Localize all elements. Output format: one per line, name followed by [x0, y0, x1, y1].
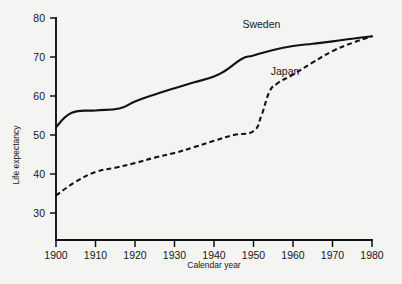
y-tick-label-80: 80: [33, 12, 45, 24]
life-expectancy-chart: 304050607080 190019101920193019401950196…: [0, 0, 402, 284]
series-label-sweden: Sweden: [242, 18, 280, 30]
series-paths: [56, 36, 372, 195]
y-tick-label-60: 60: [33, 90, 45, 102]
x-tick-label-1950: 1950: [242, 249, 266, 261]
x-tick-label-1970: 1970: [321, 249, 345, 261]
series-line-japan: [56, 36, 372, 195]
y-tick-label-40: 40: [33, 168, 45, 180]
x-tick-label-1980: 1980: [360, 249, 384, 261]
y-tick-label-30: 30: [33, 207, 45, 219]
series-label-japan: Japan: [271, 65, 300, 77]
y-axis-title: Life expectancy: [11, 125, 21, 185]
x-tick-label-1920: 1920: [123, 249, 147, 261]
y-tick-label-50: 50: [33, 129, 45, 141]
series-line-sweden: [56, 36, 372, 127]
x-tick-label-1960: 1960: [281, 249, 305, 261]
x-tick-label-1930: 1930: [163, 249, 187, 261]
chart-axes: [56, 18, 372, 240]
chart-canvas: 304050607080 190019101920193019401950196…: [0, 0, 402, 284]
x-axis-ticks: [56, 240, 372, 247]
x-tick-label-1910: 1910: [84, 249, 108, 261]
y-tick-label-70: 70: [33, 51, 45, 63]
x-axis-title: Calendar year: [187, 260, 241, 270]
x-tick-label-1900: 1900: [44, 249, 68, 261]
y-axis-tick-labels: 304050607080: [33, 12, 45, 219]
